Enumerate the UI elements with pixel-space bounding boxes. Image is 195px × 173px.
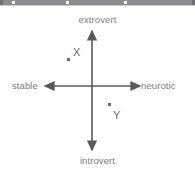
data-point-x-label: X [73, 46, 80, 58]
quadrant-diagram: extrovert introvert stable neurotic X Y [0, 5, 195, 173]
slider-tick-2 [66, 1, 69, 4]
diagram-screenshot: extrovert introvert stable neurotic X Y [0, 0, 195, 173]
axis-label-introvert: introvert [0, 155, 195, 166]
data-point-y-label: Y [113, 109, 120, 121]
axis-label-stable: stable [12, 80, 38, 91]
data-point-x-marker [67, 58, 70, 61]
axis-label-extrovert: extrovert [0, 14, 195, 25]
slider-tick-1 [12, 1, 15, 4]
slider-tick-3 [124, 1, 127, 4]
axis-label-neurotic: neurotic [141, 80, 176, 91]
data-point-y-marker [108, 103, 111, 106]
